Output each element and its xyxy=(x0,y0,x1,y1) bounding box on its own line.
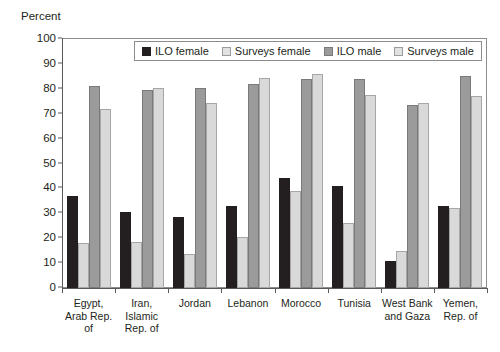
x-tick-mark xyxy=(168,288,169,293)
legend-label: ILO female xyxy=(155,45,209,57)
bar-surveys-male xyxy=(312,74,323,288)
bar-group xyxy=(433,39,486,288)
bar-ilo-male xyxy=(460,76,471,288)
x-tick-mark xyxy=(487,288,488,293)
x-axis-label: Morocco xyxy=(275,297,328,335)
bar-ilo-male xyxy=(407,105,418,288)
x-tick-mark xyxy=(328,288,329,293)
y-tick-mark xyxy=(58,38,62,39)
bar-chart: Percent 0102030405060708090100 Egypt, Ar… xyxy=(0,0,500,352)
x-axis-label: Egypt, Arab Rep. of xyxy=(62,297,115,335)
bar-ilo-female xyxy=(120,212,131,288)
bar-ilo-female xyxy=(332,186,343,288)
bar-group xyxy=(63,39,116,288)
x-tick-mark xyxy=(275,288,276,293)
legend-swatch-icon xyxy=(222,47,231,56)
bar-surveys-male xyxy=(206,103,217,289)
legend-item: Surveys female xyxy=(222,45,311,57)
bar-ilo-female xyxy=(385,261,396,288)
y-tick-mark xyxy=(58,112,62,113)
x-axis-label: Lebanon xyxy=(221,297,274,335)
x-axis-labels: Egypt, Arab Rep. ofIran, Islamic Rep. of… xyxy=(62,297,487,335)
legend-item: Surveys male xyxy=(394,45,474,57)
bar-ilo-female xyxy=(67,196,78,288)
bar-surveys-female xyxy=(290,191,301,288)
bar-surveys-female xyxy=(78,243,89,288)
bar-ilo-female xyxy=(279,178,290,288)
y-tick-mark xyxy=(58,262,62,263)
bar-surveys-male xyxy=(418,103,429,289)
bar-group xyxy=(327,39,380,288)
y-tick-mark xyxy=(58,137,62,138)
bar-surveys-female xyxy=(237,237,248,288)
bar-ilo-male xyxy=(301,79,312,288)
bar-ilo-female xyxy=(438,206,449,288)
y-tick-mark xyxy=(58,162,62,163)
bar-ilo-female xyxy=(173,217,184,288)
bar-surveys-male xyxy=(471,96,482,288)
bar-surveys-female xyxy=(396,251,407,288)
bar-surveys-male xyxy=(153,88,164,288)
x-axis-label: Yemen, Rep. of xyxy=(434,297,487,335)
y-tick-mark xyxy=(58,212,62,213)
legend-item: ILO female xyxy=(142,45,209,57)
bar-surveys-female xyxy=(184,254,195,288)
bar-group xyxy=(222,39,275,288)
y-tick-mark xyxy=(58,187,62,188)
bar-surveys-female xyxy=(343,223,354,288)
legend-label: Surveys male xyxy=(407,45,474,57)
legend-swatch-icon xyxy=(394,47,403,56)
x-tick-mark xyxy=(62,288,63,293)
legend-item: ILO male xyxy=(324,45,382,57)
bar-surveys-female xyxy=(449,208,460,288)
bar-ilo-male xyxy=(89,86,100,288)
legend-label: ILO male xyxy=(337,45,382,57)
x-tick-mark xyxy=(381,288,382,293)
bar-group xyxy=(380,39,433,288)
chart-legend: ILO femaleSurveys femaleILO maleSurveys … xyxy=(134,41,482,61)
plot-area xyxy=(63,39,486,288)
bar-ilo-male xyxy=(142,90,153,288)
bar-surveys-male xyxy=(365,95,376,288)
x-tick-mark xyxy=(221,288,222,293)
y-axis-title: Percent xyxy=(21,10,61,22)
x-tick-mark xyxy=(434,288,435,293)
bar-group xyxy=(116,39,169,288)
y-tick-mark xyxy=(58,62,62,63)
x-tick-mark xyxy=(115,288,116,293)
bar-group xyxy=(169,39,222,288)
bar-surveys-male xyxy=(259,78,270,288)
y-tick-mark xyxy=(58,87,62,88)
x-axis-label: Iran, Islamic Rep. of xyxy=(115,297,168,335)
x-axis-label: Tunisia xyxy=(328,297,381,335)
x-axis-label: Jordan xyxy=(168,297,221,335)
legend-swatch-icon xyxy=(142,47,151,56)
bar-ilo-female xyxy=(226,206,237,288)
bar-surveys-male xyxy=(100,109,111,288)
y-tick-mark xyxy=(58,237,62,238)
bar-ilo-male xyxy=(195,88,206,288)
bar-ilo-male xyxy=(354,79,365,288)
bar-group xyxy=(275,39,328,288)
bar-ilo-male xyxy=(248,84,259,288)
legend-swatch-icon xyxy=(324,47,333,56)
bar-surveys-female xyxy=(131,242,142,288)
x-axis-label: West Bank and Gaza xyxy=(381,297,434,335)
legend-label: Surveys female xyxy=(235,45,311,57)
